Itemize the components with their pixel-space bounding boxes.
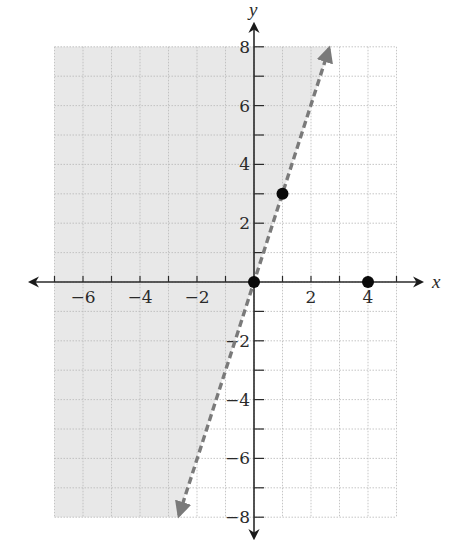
y-tick-label: −6 [225, 448, 250, 468]
y-tick-label: −4 [225, 390, 250, 410]
x-tick-label: 2 [306, 287, 317, 307]
x-axis-label: x [431, 271, 441, 292]
data-point [362, 276, 374, 288]
x-tick-label: 4 [363, 287, 374, 307]
y-tick-label: 8 [239, 37, 250, 57]
y-axis-label: y [247, 0, 258, 20]
coordinate-plane: −6−4−2248642−2−4−6−8 x y [0, 0, 453, 560]
x-tick-label: −2 [184, 287, 209, 307]
x-tick-label: −4 [127, 287, 152, 307]
y-tick-label: 4 [239, 154, 250, 174]
data-point [277, 188, 289, 200]
y-tick-label: −8 [225, 507, 250, 527]
y-tick-label: 2 [239, 213, 250, 233]
data-point [248, 276, 260, 288]
x-tick-label: −6 [70, 287, 95, 307]
y-tick-label: 6 [239, 96, 250, 116]
